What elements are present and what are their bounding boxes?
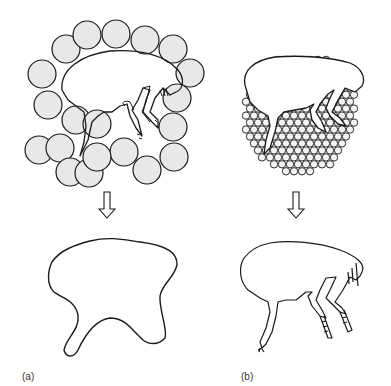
small-sphere xyxy=(246,105,253,112)
small-sphere xyxy=(254,147,261,154)
large-sphere xyxy=(163,84,191,112)
small-sphere xyxy=(314,140,321,147)
small-sphere xyxy=(330,126,337,133)
small-sphere xyxy=(310,147,317,154)
large-sphere xyxy=(159,113,187,141)
small-sphere xyxy=(326,119,333,126)
small-sphere xyxy=(286,119,293,126)
small-sphere xyxy=(274,154,281,161)
small-sphere xyxy=(278,161,285,168)
large-sphere xyxy=(73,21,101,49)
small-sphere xyxy=(318,161,325,168)
small-sphere xyxy=(282,126,289,133)
small-sphere xyxy=(294,133,301,140)
panel-a-coarse-cast-shape xyxy=(49,239,178,356)
small-sphere xyxy=(342,91,349,98)
small-sphere xyxy=(346,98,353,105)
small-sphere xyxy=(290,154,297,161)
small-sphere xyxy=(290,126,297,133)
small-sphere xyxy=(294,119,301,126)
small-sphere xyxy=(286,161,293,168)
small-sphere xyxy=(322,140,329,147)
small-sphere xyxy=(250,126,257,133)
small-sphere xyxy=(338,140,345,147)
large-sphere xyxy=(102,20,130,48)
small-sphere xyxy=(342,105,349,112)
small-sphere xyxy=(302,161,309,168)
small-sphere xyxy=(298,154,305,161)
large-sphere xyxy=(83,143,111,171)
panel-b-detailed-cast-shape xyxy=(241,242,363,352)
large-sphere xyxy=(28,60,56,88)
panel-a-label: (a) xyxy=(22,371,34,382)
small-sphere xyxy=(330,140,337,147)
small-sphere xyxy=(294,161,301,168)
small-sphere xyxy=(350,119,357,126)
small-sphere xyxy=(346,126,353,133)
small-sphere xyxy=(346,112,353,119)
transition-arrows xyxy=(99,192,304,218)
small-sphere xyxy=(326,161,333,168)
small-sphere xyxy=(242,126,249,133)
small-sphere xyxy=(286,133,293,140)
small-sphere xyxy=(314,154,321,161)
large-sphere xyxy=(34,91,62,119)
small-sphere xyxy=(246,133,253,140)
large-sphere xyxy=(133,156,161,184)
small-sphere xyxy=(326,133,333,140)
small-sphere xyxy=(306,154,313,161)
small-sphere xyxy=(318,147,325,154)
small-sphere xyxy=(286,147,293,154)
small-sphere xyxy=(338,98,345,105)
small-sphere xyxy=(274,140,281,147)
small-sphere xyxy=(250,112,257,119)
small-sphere xyxy=(310,133,317,140)
small-sphere xyxy=(282,154,289,161)
small-sphere xyxy=(298,126,305,133)
small-sphere xyxy=(302,133,309,140)
small-sphere xyxy=(334,147,341,154)
small-sphere xyxy=(282,168,289,175)
small-sphere xyxy=(306,168,313,175)
large-sphere xyxy=(83,110,111,138)
small-sphere xyxy=(254,119,261,126)
figure-canvas: (a) (b) xyxy=(0,0,391,386)
small-sphere xyxy=(318,133,325,140)
small-sphere xyxy=(282,140,289,147)
small-sphere xyxy=(306,126,313,133)
small-sphere xyxy=(350,105,357,112)
panel-b-label: (b) xyxy=(241,371,253,382)
down-arrow-icon xyxy=(99,192,115,218)
small-sphere xyxy=(310,161,317,168)
small-sphere xyxy=(290,112,297,119)
small-sphere xyxy=(330,154,337,161)
small-sphere xyxy=(338,126,345,133)
small-sphere xyxy=(258,154,265,161)
small-sphere xyxy=(334,133,341,140)
down-arrow-icon xyxy=(288,192,304,218)
small-sphere xyxy=(254,133,261,140)
small-sphere xyxy=(290,168,297,175)
small-sphere xyxy=(246,119,253,126)
small-sphere xyxy=(298,112,305,119)
small-sphere xyxy=(270,161,277,168)
panel-a-large-spheres xyxy=(25,20,204,187)
large-sphere xyxy=(131,26,159,54)
small-sphere xyxy=(326,147,333,154)
small-sphere xyxy=(278,119,285,126)
small-sphere xyxy=(290,140,297,147)
large-sphere xyxy=(110,138,138,166)
small-sphere xyxy=(266,154,273,161)
small-sphere xyxy=(342,133,349,140)
small-sphere xyxy=(242,112,249,119)
small-sphere xyxy=(278,147,285,154)
small-sphere xyxy=(322,154,329,161)
small-sphere xyxy=(298,168,305,175)
small-sphere xyxy=(302,119,309,126)
small-sphere xyxy=(270,147,277,154)
small-sphere xyxy=(250,140,257,147)
small-sphere xyxy=(306,140,313,147)
small-sphere xyxy=(258,126,265,133)
small-sphere xyxy=(278,133,285,140)
large-sphere xyxy=(160,143,188,171)
